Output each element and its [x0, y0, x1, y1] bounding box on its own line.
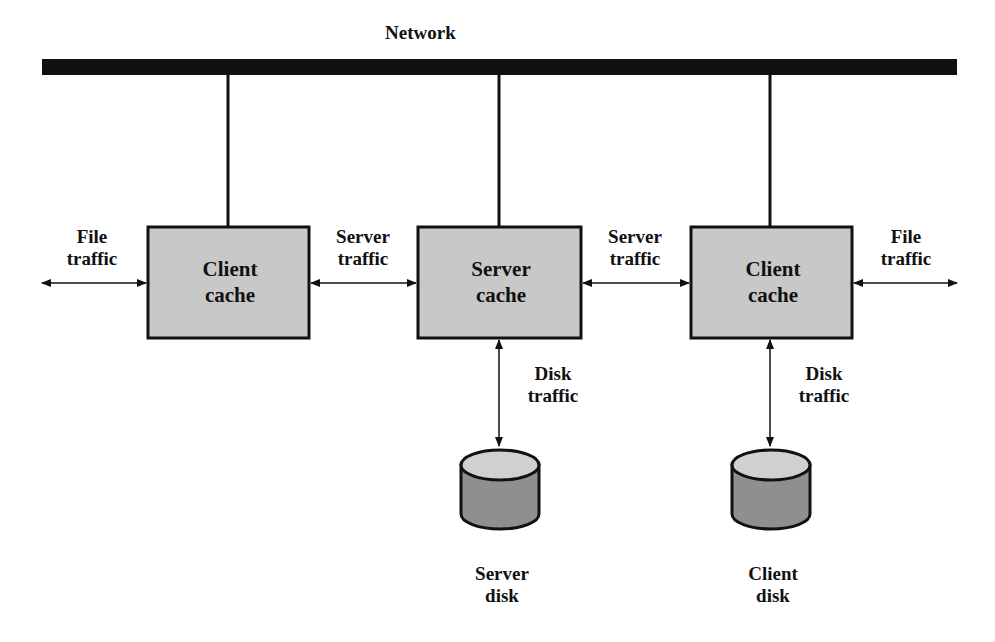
label-line: disk	[462, 585, 542, 607]
client-disk-label: Client disk	[733, 563, 813, 607]
client-cache-left-label: Client cache	[148, 256, 312, 308]
diagram-canvas	[0, 0, 995, 642]
client-cache-right-label: Client cache	[691, 256, 855, 308]
server-disk-label: Server disk	[462, 563, 542, 607]
disk-traffic-server-label: Disk traffic	[518, 363, 588, 407]
label-line: Disk	[518, 363, 588, 385]
file-traffic-right-label: File traffic	[866, 226, 946, 270]
label-line: Server	[322, 226, 404, 248]
label-line: disk	[733, 585, 813, 607]
label-line: traffic	[789, 385, 859, 407]
server-disk-icon	[461, 450, 539, 529]
server-traffic-right-label: Server traffic	[594, 226, 676, 270]
label-line: traffic	[594, 248, 676, 270]
file-traffic-left-label: File traffic	[52, 226, 132, 270]
label-line: Client	[691, 256, 855, 282]
label-line: traffic	[52, 248, 132, 270]
label-line: Disk	[789, 363, 859, 385]
disk-traffic-client-label: Disk traffic	[789, 363, 859, 407]
label-line: Server	[418, 256, 584, 282]
label-line: Client	[733, 563, 813, 585]
server-traffic-left-label: Server traffic	[322, 226, 404, 270]
label-line: cache	[148, 282, 312, 308]
client-disk-icon	[732, 450, 810, 529]
label-line: Server	[462, 563, 542, 585]
label-line: File	[52, 226, 132, 248]
label-line: Server	[594, 226, 676, 248]
label-line: traffic	[322, 248, 404, 270]
label-line: cache	[691, 282, 855, 308]
network-label: Network	[385, 22, 456, 44]
network-bus	[42, 59, 957, 75]
label-line: File	[866, 226, 946, 248]
label-line: cache	[418, 282, 584, 308]
label-line: Client	[148, 256, 312, 282]
server-cache-label: Server cache	[418, 256, 584, 308]
label-line: traffic	[518, 385, 588, 407]
label-line: traffic	[866, 248, 946, 270]
